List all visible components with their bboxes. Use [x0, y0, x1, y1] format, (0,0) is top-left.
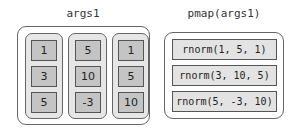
args1-title: args1 — [17, 7, 149, 20]
cell: 1 — [31, 40, 57, 61]
pmap-result-box: rnorm(1, 5, 1) rnorm(3, 10, 5) rnorm(5, … — [164, 32, 284, 119]
cell: 10 — [118, 92, 144, 113]
cell: 3 — [31, 66, 57, 87]
pmap-call-row: rnorm(3, 10, 5) — [172, 65, 277, 86]
cell: 5 — [31, 92, 57, 113]
pmap-title: pmap(args1) — [164, 7, 284, 20]
args1-list-box: 1 3 5 5 10 -3 1 5 10 — [17, 26, 150, 125]
cell: 10 — [75, 66, 101, 87]
pmap-call-row: rnorm(5, -3, 10) — [172, 91, 277, 112]
cell: 5 — [118, 66, 144, 87]
cell: 1 — [118, 40, 144, 61]
args1-column-1: 1 3 5 — [25, 33, 63, 119]
args1-column-2: 5 10 -3 — [68, 33, 107, 119]
args1-column-3: 1 5 10 — [112, 33, 149, 119]
pmap-call-row: rnorm(1, 5, 1) — [172, 39, 277, 60]
cell: -3 — [75, 92, 101, 113]
cell: 5 — [75, 40, 101, 61]
